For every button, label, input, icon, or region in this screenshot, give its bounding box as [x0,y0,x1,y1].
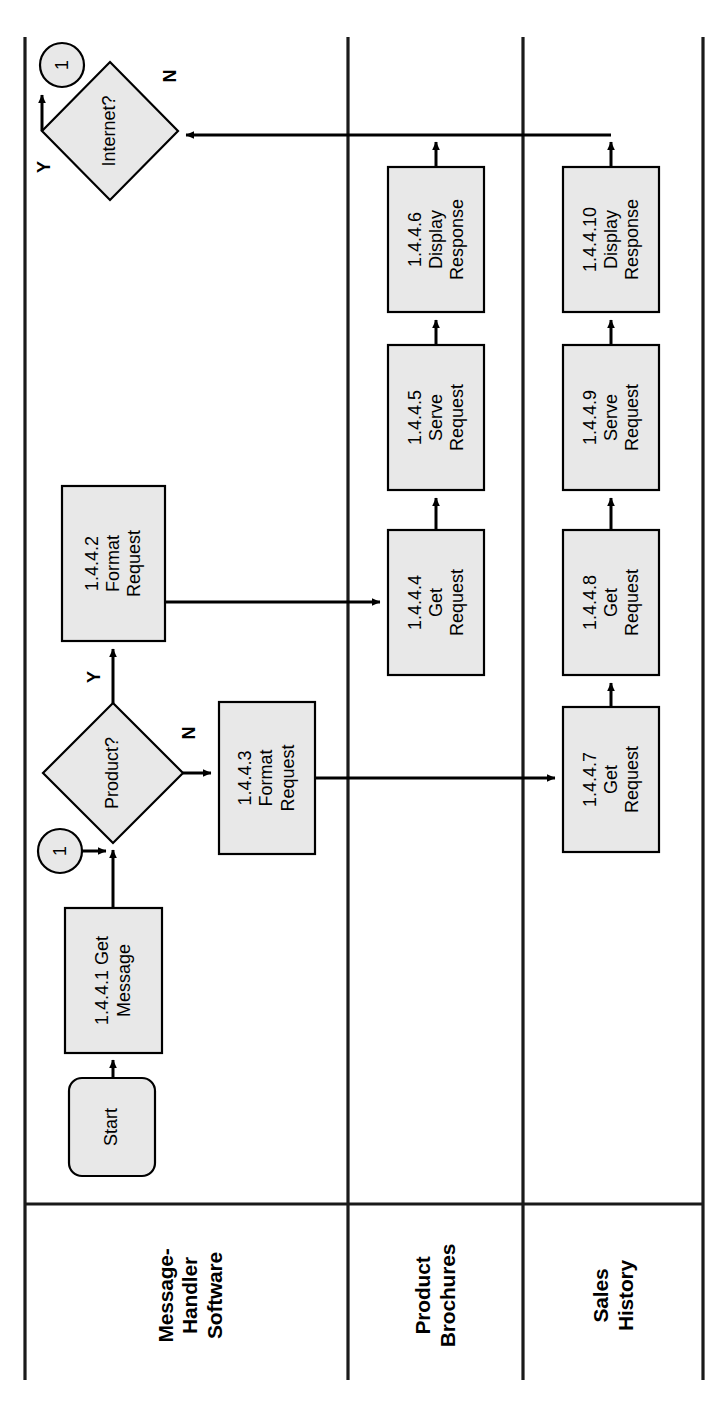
lane-title-message-handler: Message- Handler Software [108,1216,273,1376]
node-1446-label: 1.4.4.6 Display Response [369,168,504,312]
node-1443-label: 1.4.4.3 Format Request [196,704,338,852]
node-start-label: Start [68,1077,156,1177]
node-14410-label: 1.4.4.10 Display Response [544,168,679,312]
node-internet-decision-label: Internet? [85,79,135,183]
node-1449-label: 1.4.4.9 Serve Request [544,346,679,490]
connector-mid-label: 1 [40,831,80,871]
node-1441-label: 1.4.4.1 Get Message [46,907,181,1054]
node-product-decision-label: Product? [88,723,138,823]
flowchart-page: Message- Handler Software Product Brochu… [0,0,727,1415]
edge-label-product-yes: Y [79,659,109,695]
node-1442-label: 1.4.4.2 Format Request [41,487,186,640]
connector-top-label: 1 [42,45,82,85]
node-1447-label: 1.4.4.7 Get Request [544,708,679,852]
edge-label-product-no: N [174,715,204,751]
edge-label-internet-no: N [155,58,185,94]
edge-label-internet-yes: Y [29,149,59,185]
lane-title-sales-history: Sales History [531,1216,696,1376]
node-1448-label: 1.4.4.8 Get Request [544,531,679,675]
lane-title-product-brochures: Product Brochures [353,1216,518,1376]
node-1445-label: 1.4.4.5 Serve Request [369,346,504,490]
node-1444-label: 1.4.4.4 Get Request [369,531,504,675]
